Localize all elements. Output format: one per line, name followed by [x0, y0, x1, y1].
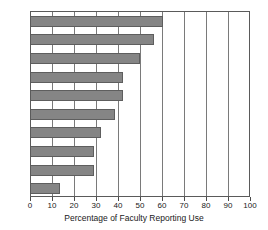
- bar-chart-figure: 0102030405060708090100 Percentage of Fac…: [0, 0, 268, 230]
- bar-row: [31, 16, 250, 27]
- bar-row: [31, 127, 250, 138]
- tick-label-60: 60: [158, 201, 167, 211]
- x-axis-title: Percentage of Faculty Reporting Use: [0, 213, 268, 224]
- bar: [31, 165, 94, 176]
- bar: [31, 109, 115, 120]
- tick-label-10: 10: [48, 201, 57, 211]
- bar: [31, 90, 123, 101]
- bar: [31, 72, 123, 83]
- bar: [31, 53, 140, 64]
- bar-row: [31, 34, 250, 45]
- tick-label-20: 20: [70, 201, 79, 211]
- bar: [31, 16, 163, 27]
- tick-label-40: 40: [114, 201, 123, 211]
- tick-label-100: 100: [243, 201, 256, 211]
- tick-label-80: 80: [202, 201, 211, 211]
- bar-series: [31, 12, 249, 196]
- bar: [31, 183, 60, 194]
- tick-label-70: 70: [180, 201, 189, 211]
- bar-row: [31, 165, 250, 176]
- tick-label-0: 0: [28, 201, 32, 211]
- plot-area: [30, 11, 250, 197]
- bar: [31, 127, 101, 138]
- bar-row: [31, 72, 250, 83]
- bar-row: [31, 109, 250, 120]
- bar: [31, 34, 154, 45]
- tick-label-50: 50: [136, 201, 145, 211]
- bar-row: [31, 90, 250, 101]
- bar-row: [31, 53, 250, 64]
- bar-row: [31, 183, 250, 194]
- bar-row: [31, 146, 250, 157]
- tick-label-30: 30: [92, 201, 101, 211]
- bar: [31, 146, 94, 157]
- tick-label-90: 90: [224, 201, 233, 211]
